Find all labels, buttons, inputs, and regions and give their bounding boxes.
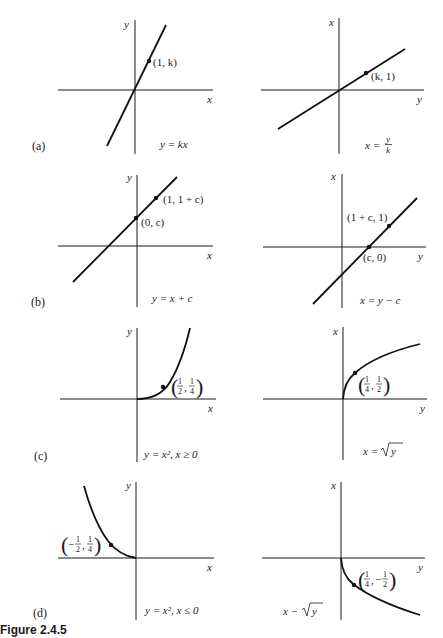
y-axis-label: y <box>417 561 423 573</box>
equation: y = x + c <box>151 292 193 304</box>
line-x-y-over-k <box>278 49 405 129</box>
svg-text:−: − <box>68 538 74 550</box>
graph-c-right: x y ( 1 4 , 1 2 ) x = y <box>263 325 427 460</box>
point-c-0 <box>367 245 371 249</box>
figure-canvas: y x (1, k) y = kx (a) x y (k, 1) x = y k… <box>0 0 443 638</box>
y-axis-label: y <box>125 479 131 491</box>
point-label: ( 1 4 , 1 2 ) <box>358 372 390 397</box>
equation: x = y − c <box>359 294 401 306</box>
panel-label-a: (a) <box>32 139 45 153</box>
svg-text:1: 1 <box>383 570 387 579</box>
svg-text:4: 4 <box>88 545 92 554</box>
svg-text:4: 4 <box>190 387 194 396</box>
point-1-1plusc <box>154 196 158 200</box>
fraction-denominator: k <box>386 145 391 155</box>
svg-text:1: 1 <box>377 375 381 384</box>
svg-text:2: 2 <box>383 580 387 589</box>
point-k-1 <box>364 71 368 75</box>
x-axis-label: x <box>206 561 212 573</box>
svg-text:1: 1 <box>365 570 369 579</box>
panel-label-b: (b) <box>31 295 45 309</box>
line-y-x-plus-c <box>73 177 177 282</box>
svg-text:1: 1 <box>190 377 194 386</box>
graph-d-left: y x ( − 1 2 , 1 4 ) y = x², x ≤ 0 (d) <box>33 479 214 620</box>
point2-label: (0, c) <box>141 216 165 229</box>
y-axis-label: y <box>417 250 423 262</box>
point-quarter-half <box>353 371 357 375</box>
y-axis-label: y <box>123 18 129 30</box>
point-label: (1, k) <box>153 56 177 69</box>
graph-d-right: x y ( 1 4 , − 1 2 ) x − y <box>262 479 425 620</box>
x-axis-label: x <box>206 93 212 105</box>
equation: x = y k <box>364 134 392 155</box>
x-axis-label: x <box>330 170 336 182</box>
equation: x − y <box>282 603 323 617</box>
line-y-kx <box>107 25 166 146</box>
point-1plusc-1 <box>387 224 391 228</box>
svg-text:1: 1 <box>178 377 182 386</box>
svg-text:,: , <box>184 381 187 393</box>
svg-text:): ) <box>389 567 396 592</box>
svg-text:x −: x − <box>282 605 298 617</box>
y-axis-label: y <box>419 402 425 414</box>
graph-b-left: y x (1, 1 + c) (0, c) y = x + c (b) <box>31 171 213 309</box>
figure-caption: Figure 2.4.5 <box>0 623 67 637</box>
svg-text:1: 1 <box>88 535 92 544</box>
x-axis-label: x <box>207 402 213 414</box>
svg-text:): ) <box>196 374 203 399</box>
svg-text:2: 2 <box>377 385 381 394</box>
equation: y = kx <box>159 138 188 150</box>
point-0-c <box>134 216 138 220</box>
svg-text:−: − <box>375 573 381 585</box>
svg-text:): ) <box>94 532 101 557</box>
svg-text:1: 1 <box>365 375 369 384</box>
point-label: ( 1 2 , 1 4 ) <box>171 374 203 399</box>
point1-label: (1, 1 + c) <box>163 193 204 206</box>
equation: y = x², x ≤ 0 <box>144 604 199 616</box>
point-label: ( − 1 2 , 1 4 ) <box>61 532 101 557</box>
point-quarter-neg-half <box>352 583 356 587</box>
graph-a-right: x y (k, 1) x = y k <box>261 16 424 155</box>
point1-label: (1 + c, 1) <box>347 211 388 224</box>
point-1-k <box>147 59 151 63</box>
panel-label-d: (d) <box>33 606 47 620</box>
x-axis-label: x <box>206 249 212 261</box>
equation: x = y <box>362 443 403 457</box>
y-axis-label: y <box>126 325 132 337</box>
svg-text:2: 2 <box>76 545 80 554</box>
point-neg-half-quarter <box>109 543 113 547</box>
y-axis-label: y <box>126 171 132 183</box>
svg-text:y: y <box>390 445 396 457</box>
graph-c-left: y x ( 1 2 , 1 4 ) y = x², x ≥ 0 (c) <box>34 325 216 463</box>
x-axis-label: x <box>332 325 338 337</box>
equation: y = x², x ≥ 0 <box>143 448 198 460</box>
svg-text:2: 2 <box>178 387 182 396</box>
x-axis-label: x <box>330 479 336 491</box>
x-axis-label: x <box>328 16 334 28</box>
svg-text:4: 4 <box>365 580 369 589</box>
svg-text:x =: x = <box>362 445 378 457</box>
svg-text:,: , <box>371 379 374 391</box>
svg-text:,: , <box>371 574 374 586</box>
point-label: (k, 1) <box>371 70 395 83</box>
svg-text:4: 4 <box>365 385 369 394</box>
svg-text:y: y <box>311 605 317 617</box>
svg-text:1: 1 <box>76 535 80 544</box>
fraction-numerator: y <box>385 134 390 144</box>
point-half-quarter <box>161 385 165 389</box>
graph-b-right: x y (1 + c, 1) (c, 0) x = y − c <box>263 170 426 308</box>
svg-text:): ) <box>383 372 390 397</box>
svg-text:x =: x = <box>364 139 380 151</box>
panel-label-c: (c) <box>34 449 47 463</box>
point-label: ( 1 4 , − 1 2 ) <box>358 567 396 592</box>
svg-text:,: , <box>82 539 85 551</box>
point2-label: (c, 0) <box>363 251 387 264</box>
y-axis-label: y <box>416 93 422 105</box>
graph-a-left: y x (1, k) y = kx (a) <box>32 18 213 154</box>
